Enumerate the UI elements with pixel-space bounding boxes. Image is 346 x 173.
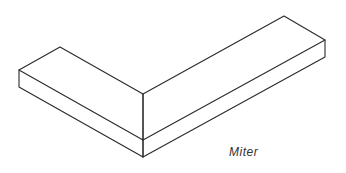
miter-joint-drawing [0, 0, 346, 173]
left-board-top-face [19, 47, 143, 140]
right-board-top-face [143, 16, 325, 140]
right-board-front-face [143, 40, 325, 157]
miter-label: Miter [229, 145, 258, 159]
